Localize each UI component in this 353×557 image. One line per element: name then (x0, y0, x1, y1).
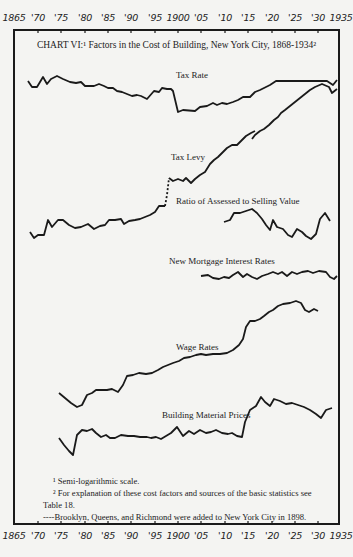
mortgage-label: New Mortgage Interest Rates (169, 256, 275, 266)
ratio-label: Ratio of Assessed to Selling Value (176, 196, 300, 206)
footnote-semi-log: ¹ Semi-logarithmic scale. (43, 475, 333, 487)
wage-rates-line (59, 301, 318, 407)
axis-ticks (38, 29, 318, 525)
footnote-consolidation: ----Brooklyn, Queens, and Richmond were … (43, 511, 333, 523)
building-material-prices-line (59, 397, 332, 455)
tax-levy-line-early (30, 206, 165, 238)
chart-plot (0, 0, 353, 557)
footnote-explanation: ² For explanation of these cost factors … (43, 487, 333, 499)
tax-levy-line (252, 84, 337, 139)
tax-levy-consolidation-dashed (165, 178, 169, 206)
mortgage-interest-line (201, 271, 337, 279)
tax-levy-label: Tax Levy (171, 152, 205, 162)
footnotes: ¹ Semi-logarithmic scale. ² For explanat… (43, 475, 333, 523)
chart-title: CHART VI:¹ Factors in the Cost of Buildi… (0, 40, 353, 50)
ratio-assessed-selling-line (224, 209, 330, 239)
footnote-table-ref: Table 18. (43, 499, 333, 511)
material-prices-label: Building Material Prices (162, 410, 250, 420)
tax-rate-label: Tax Rate (176, 70, 208, 80)
wage-rates-label: Wage Rates (176, 342, 219, 352)
